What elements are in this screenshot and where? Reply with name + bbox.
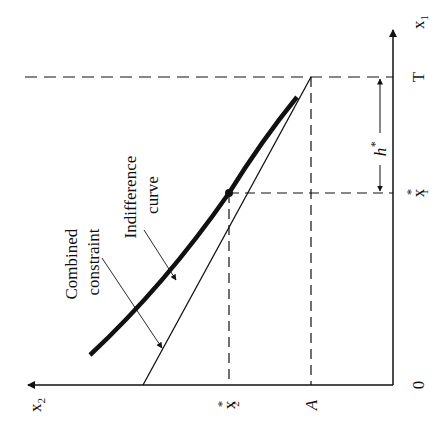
T-label: T <box>409 71 428 82</box>
indifference-curve-label: Indifference curve <box>121 152 162 239</box>
x2-axis-label: x2 <box>26 398 47 412</box>
x1-axis-label: x1 <box>409 15 430 29</box>
origin-label: 0 <box>409 381 428 390</box>
x1-star-label: x1* <box>403 188 430 197</box>
indifference-curve-leader <box>144 230 176 280</box>
h-star-label: h* <box>368 142 390 157</box>
combined-constraint-label: Combined constraint <box>62 224 103 299</box>
tangency-point <box>225 189 233 197</box>
diagram-canvas: x1 T x1* 0 h* x2 x2* A <box>0 0 440 433</box>
labor-leisure-diagram: x1 T x1* 0 h* x2 x2* A <box>0 0 440 433</box>
combined-constraint-line <box>143 77 311 385</box>
x2-star-label: x2* <box>214 400 241 409</box>
A-label: A <box>302 399 321 411</box>
